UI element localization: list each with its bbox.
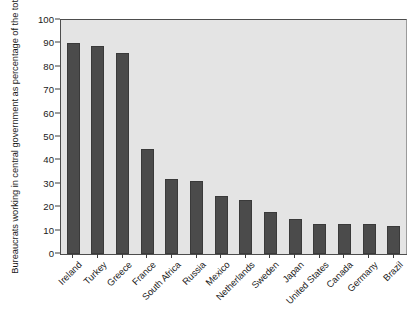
bar-slot — [307, 20, 332, 254]
x-axis-tick-labels: IrelandTurkeyGreeceFranceSouth AfricaRus… — [60, 259, 405, 329]
y-axis-title-text: Bureaucrats working in central governmen… — [9, 0, 22, 273]
y-axis-tick-label: 30 — [27, 177, 54, 188]
bar — [116, 53, 129, 254]
bar — [91, 46, 104, 254]
x-axis-tick-label: Russia — [179, 259, 207, 287]
bar — [215, 196, 228, 255]
bar-slot — [61, 20, 86, 254]
bar-slot — [209, 20, 234, 254]
y-axis-tick-label: 90 — [27, 37, 54, 48]
bar-slot — [233, 20, 258, 254]
x-axis-tick-label: Turkey — [81, 259, 109, 287]
y-axis-title: Bureaucrats working in central governmen… — [0, 0, 30, 266]
bar — [141, 149, 154, 254]
y-axis-tick-label: 20 — [27, 201, 54, 212]
bar-slot — [160, 20, 185, 254]
bar-slot — [86, 20, 111, 254]
bar-slot — [110, 20, 135, 254]
y-axis-tick-label: 10 — [27, 224, 54, 235]
plot-area — [60, 19, 407, 254]
y-axis-tick-labels: 0102030405060708090100 — [27, 13, 54, 253]
bar — [67, 43, 80, 254]
bar — [190, 181, 203, 254]
x-axis-tick-label: Greece — [104, 259, 133, 288]
x-axis-tick-label: Ireland — [56, 259, 84, 287]
bar-slot — [258, 20, 283, 254]
bar-slot — [381, 20, 406, 254]
y-axis-tick-label: 40 — [27, 154, 54, 165]
bar — [165, 179, 178, 254]
bar — [264, 212, 277, 254]
y-axis-tick-label: 80 — [27, 60, 54, 71]
bar — [363, 224, 376, 254]
bar-series — [61, 20, 406, 254]
bar — [289, 219, 302, 254]
bar-slot — [332, 20, 357, 254]
bar — [239, 200, 252, 254]
bar-slot — [135, 20, 160, 254]
y-axis-tick-label: 60 — [27, 107, 54, 118]
bar-slot — [184, 20, 209, 254]
chart-figure: Bureaucrats working in central governmen… — [0, 0, 416, 329]
y-axis-tick-label: 100 — [27, 14, 54, 25]
x-axis-tick-label: Brazil — [380, 259, 404, 283]
bar-slot — [283, 20, 308, 254]
bar — [338, 224, 351, 254]
bar-slot — [357, 20, 382, 254]
bar — [313, 224, 326, 254]
y-axis-tick-label: 70 — [27, 84, 54, 95]
y-axis-tick-label: 0 — [27, 248, 54, 259]
bar — [387, 226, 400, 254]
y-axis-tick-label: 50 — [27, 131, 54, 142]
